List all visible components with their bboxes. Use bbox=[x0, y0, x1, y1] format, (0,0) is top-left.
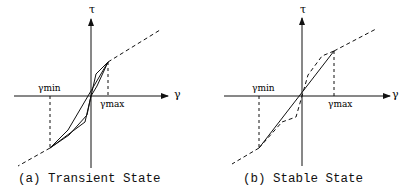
caption-b: (b) Stable State bbox=[243, 172, 363, 186]
gamma-max-a: γmax bbox=[100, 99, 124, 109]
panel-b-plot bbox=[224, 18, 390, 166]
tau-label-a: τ bbox=[89, 3, 95, 16]
gamma-label-b: γ bbox=[392, 88, 399, 101]
backbone-lower bbox=[18, 148, 50, 166]
panel-a-plot bbox=[14, 19, 168, 168]
caption-a: (a) Transient State bbox=[18, 172, 161, 186]
gamma-min-a: γmin bbox=[38, 83, 61, 93]
gamma-label-a: γ bbox=[174, 88, 181, 101]
gamma-max-b: γmax bbox=[328, 99, 352, 109]
gamma-min-b: γmin bbox=[252, 83, 275, 93]
tau-label-b: τ bbox=[300, 3, 306, 16]
hysteresis-diagram bbox=[0, 0, 407, 193]
backbone-upper bbox=[108, 30, 160, 62]
